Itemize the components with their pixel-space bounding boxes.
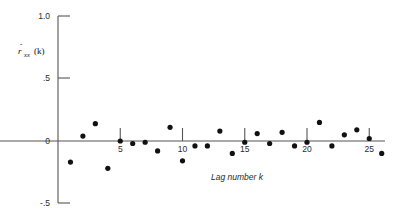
data-point-lag-8 <box>155 148 160 153</box>
y-axis-title-arg: (k) <box>34 46 45 56</box>
x-tick-label-15: 15 <box>240 144 250 154</box>
data-point-lag-13 <box>217 128 222 133</box>
correlogram-svg: 1.0 .5 0 -.5 ˆ r xx (k) 510152025 Lag nu… <box>0 0 398 216</box>
y-axis-ticks <box>58 16 70 203</box>
data-point-lag-6 <box>130 141 135 146</box>
x-tick-label-10: 10 <box>178 144 188 154</box>
data-point-lag-3 <box>93 121 98 126</box>
data-point-lag-23 <box>342 132 347 137</box>
data-point-lag-18 <box>280 130 285 135</box>
data-point-lag-1 <box>68 159 73 164</box>
x-tick-label-20: 20 <box>302 144 312 154</box>
y-axis-title: ˆ r xx (k) <box>18 42 45 58</box>
y-tick-label-1: 1.0 <box>38 11 50 21</box>
data-point-group <box>68 120 384 171</box>
data-point-lag-21 <box>317 120 322 125</box>
x-tick-label-5: 5 <box>118 144 123 154</box>
data-point-lag-15 <box>242 140 247 145</box>
data-point-lag-24 <box>354 127 359 132</box>
x-axis-title: Lag number k <box>211 172 264 182</box>
y-tick-label-0: 0 <box>45 136 50 146</box>
y-axis-title-base: r <box>18 46 22 56</box>
data-point-lag-10 <box>180 158 185 163</box>
data-point-lag-16 <box>255 131 260 136</box>
data-point-lag-14 <box>230 151 235 156</box>
data-point-lag-7 <box>143 140 148 145</box>
data-point-lag-25 <box>367 136 372 141</box>
data-point-lag-4 <box>105 166 110 171</box>
data-point-lag-19 <box>292 143 297 148</box>
data-point-lag-9 <box>167 125 172 130</box>
x-tick-label-25: 25 <box>365 144 375 154</box>
data-point-lag-5 <box>118 138 123 143</box>
data-point-lag-20 <box>304 140 309 145</box>
data-point-lag-26 <box>379 151 384 156</box>
data-point-lag-17 <box>267 141 272 146</box>
y-tick-label-neg0p5: -.5 <box>40 198 50 208</box>
data-point-lag-11 <box>192 143 197 148</box>
data-point-lag-12 <box>205 143 210 148</box>
correlogram-figure: 1.0 .5 0 -.5 ˆ r xx (k) 510152025 Lag nu… <box>0 0 398 216</box>
y-axis-title-sub: xx <box>23 51 30 58</box>
data-point-lag-2 <box>80 133 85 138</box>
data-point-lag-22 <box>329 143 334 148</box>
y-tick-label-0p5: .5 <box>43 73 50 83</box>
